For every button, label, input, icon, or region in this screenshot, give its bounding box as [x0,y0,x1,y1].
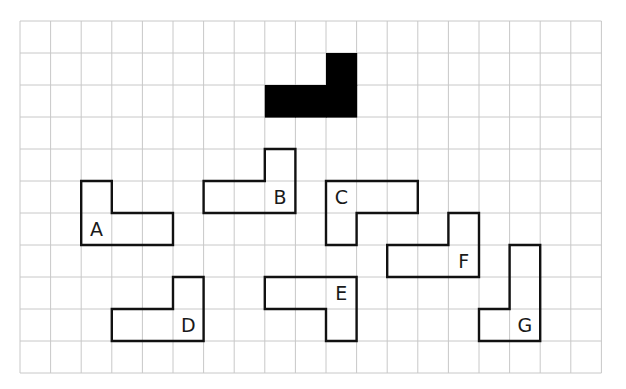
target-shape [265,53,357,118]
shape-label: F [458,250,469,272]
target-shape-cell [295,85,326,118]
target-shape-cell [265,85,296,118]
diagram-canvas: ABCDEFG [0,0,626,389]
target-shape-cell [326,53,357,86]
target-shape-cell [326,85,357,118]
shape-label: D [181,314,196,336]
shape-label: A [90,218,103,240]
grid-lines [20,21,601,373]
shape-label: C [335,186,348,208]
shape-label: G [518,314,533,336]
shape-label: B [274,186,287,208]
grid-diagram: ABCDEFG [0,0,626,389]
shape-label: E [335,282,347,304]
